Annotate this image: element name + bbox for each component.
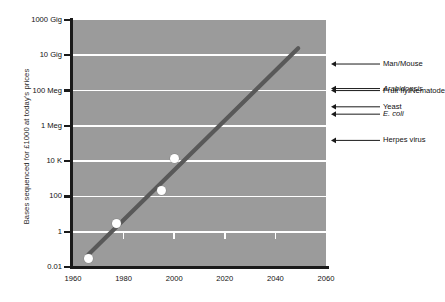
y-tick-mark bbox=[64, 54, 70, 56]
y-axis-title: Bases sequenced for £1000 at today's pri… bbox=[22, 37, 31, 257]
gridline bbox=[73, 125, 326, 127]
annotation-label: E. coli bbox=[383, 110, 404, 118]
annotation-arrow-icon bbox=[331, 138, 336, 144]
y-tick-label: 1000 Gig bbox=[31, 16, 62, 24]
annotation-arrow-icon bbox=[331, 111, 336, 117]
y-tick-label: 10 K bbox=[46, 157, 62, 165]
annotation-arrow-icon bbox=[331, 86, 336, 92]
gridline bbox=[73, 90, 326, 92]
x-tick-label: 2020 bbox=[205, 275, 245, 283]
x-tick-mark bbox=[173, 232, 175, 239]
x-tick-mark bbox=[224, 232, 226, 239]
annotation-arrow-icon bbox=[331, 88, 336, 94]
x-tick-label: 2040 bbox=[255, 275, 295, 283]
x-tick-mark bbox=[123, 232, 125, 239]
annotation-label: Herpes virus bbox=[383, 136, 426, 144]
y-axis-line bbox=[70, 18, 73, 269]
gridline bbox=[73, 231, 326, 233]
y-tick-mark bbox=[64, 231, 70, 233]
y-tick-mark bbox=[64, 19, 70, 21]
y-tick-mark bbox=[64, 195, 70, 197]
data-point bbox=[170, 154, 179, 163]
annotation-label: Fruit fly/Nematode bbox=[383, 87, 445, 95]
y-tick-mark bbox=[64, 125, 70, 127]
y-tick-mark bbox=[64, 89, 70, 91]
y-tick-label: 100 Meg bbox=[32, 87, 62, 95]
x-tick-label: 1980 bbox=[104, 275, 144, 283]
data-point bbox=[157, 186, 166, 195]
x-tick-label: 2060 bbox=[306, 275, 346, 283]
x-tick-label: 1960 bbox=[53, 275, 93, 283]
y-tick-label: 100 bbox=[49, 192, 62, 200]
plot-area bbox=[73, 20, 326, 267]
x-tick-mark bbox=[275, 232, 277, 239]
gridline bbox=[73, 54, 326, 56]
data-point bbox=[112, 219, 121, 228]
y-tick-mark bbox=[64, 160, 70, 162]
gridline bbox=[73, 196, 326, 198]
x-tick-label: 2000 bbox=[154, 275, 194, 283]
data-point bbox=[84, 254, 93, 263]
x-axis-line bbox=[70, 266, 329, 269]
annotation-label: Man/Mouse bbox=[383, 60, 423, 68]
y-tick-label: 1 bbox=[58, 228, 62, 236]
annotation-arrow-icon bbox=[331, 61, 336, 67]
gridline bbox=[73, 160, 326, 162]
y-tick-mark bbox=[64, 266, 70, 268]
y-tick-label: 1 Meg bbox=[41, 122, 62, 130]
y-tick-label: 0.01 bbox=[47, 263, 62, 271]
annotation-arrow-icon bbox=[331, 104, 336, 110]
y-tick-label: 10 Gig bbox=[40, 51, 62, 59]
